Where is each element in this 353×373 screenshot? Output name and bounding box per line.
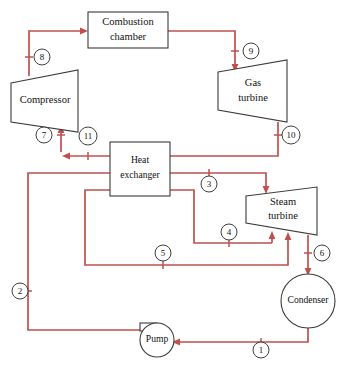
arrow-into-steam-turbine-extraction [269, 231, 276, 239]
gas-turbine-shape [218, 60, 287, 122]
component-combustion-chamber[interactable]: Combustion chamber [88, 12, 168, 48]
component-condenser[interactable]: Condenser [281, 274, 335, 328]
pipe-2-pump-to-heat-exchanger [28, 173, 140, 330]
state-point-4: 4 [221, 224, 237, 240]
pipe-3-heat-exchanger-to-steam-turbine [170, 173, 266, 190]
state-point-2: 2 [12, 283, 28, 299]
diagram-canvas: Combustion chamber Compressor Gas turbin… [0, 0, 353, 373]
component-pump[interactable]: Pump [140, 323, 174, 357]
component-heat-exchanger[interactable]: Heat exchanger [110, 142, 170, 196]
condenser-label: Condenser [287, 294, 329, 305]
combustion-chamber-label-line1: Combustion [102, 16, 154, 27]
state-point-2-label: 2 [18, 286, 23, 296]
state-point-7: 7 [36, 127, 52, 143]
state-point-6: 6 [314, 245, 330, 261]
component-compressor[interactable]: Compressor [11, 70, 78, 132]
state-point-10: 10 [282, 126, 300, 144]
state-point-11-label: 11 [84, 131, 93, 141]
compressor-label-line1: Compressor [20, 94, 71, 105]
state-point-5: 5 [155, 245, 171, 261]
steam-turbine-label-line2: turbine [268, 210, 298, 221]
arrow-steam-turbine-lower-inlet [285, 232, 292, 240]
state-point-7-label: 7 [42, 130, 47, 140]
pipe-1-condenser-to-pump [176, 328, 308, 342]
state-point-8: 8 [34, 49, 50, 65]
state-point-5-label: 5 [161, 248, 166, 258]
state-point-6-label: 6 [320, 248, 325, 258]
state-point-8-label: 8 [40, 52, 45, 62]
heat-exchanger-label-line2: exchanger [120, 169, 160, 180]
pump-label: Pump [146, 333, 169, 344]
pipe-9-combustion-to-gas-turbine [168, 31, 235, 68]
heat-exchanger-label-line1: Heat [131, 154, 149, 165]
arrow-into-combustion-chamber [80, 28, 88, 35]
component-gas-turbine[interactable]: Gas turbine [218, 60, 287, 122]
state-point-3: 3 [201, 176, 217, 192]
state-point-4-label: 4 [227, 227, 232, 237]
pipe-10-gas-turbine-to-heat-exchanger [170, 122, 278, 156]
state-point-9-label: 9 [249, 46, 254, 56]
state-point-1: 1 [253, 342, 269, 358]
process-flow-diagram: Combustion chamber Compressor Gas turbin… [0, 0, 353, 373]
combustion-chamber-label-line2: chamber [110, 31, 147, 42]
gas-turbine-label-line2: turbine [238, 92, 268, 103]
state-point-10-label: 10 [287, 130, 297, 140]
state-point-9: 9 [243, 43, 259, 59]
state-point-3-label: 3 [207, 179, 212, 189]
steam-turbine-label-line1: Steam [270, 196, 296, 207]
component-steam-turbine[interactable]: Steam turbine [246, 187, 317, 235]
state-point-1-label: 1 [259, 345, 264, 355]
gas-turbine-label-line1: Gas [245, 77, 261, 88]
state-point-11: 11 [79, 127, 97, 145]
arrow-exhaust-out [62, 153, 70, 160]
